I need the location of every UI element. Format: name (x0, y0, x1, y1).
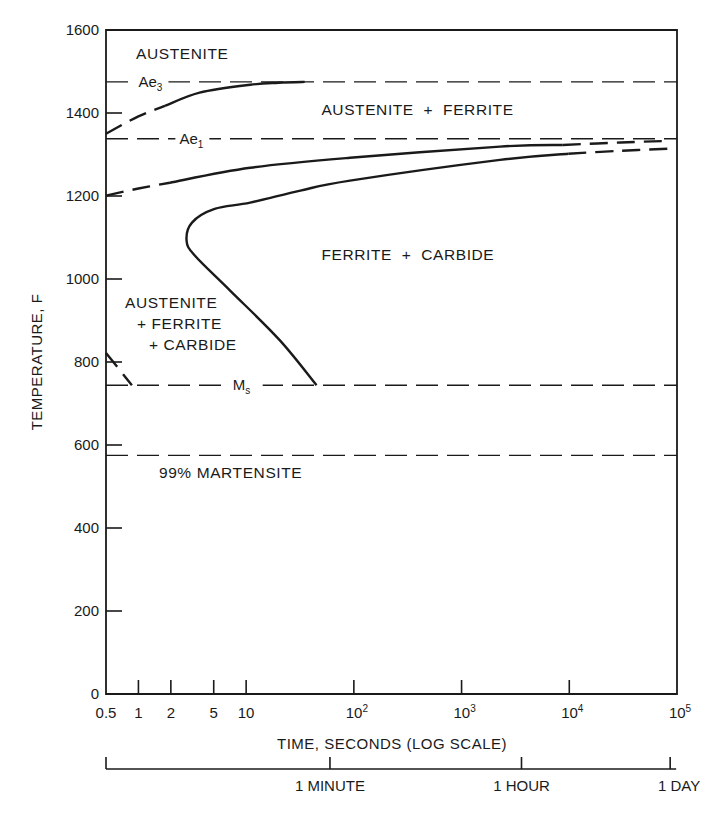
curve-segment-dashed (106, 183, 170, 196)
secondary-time-axis: 1 MINUTE1 HOUR1 DAY (106, 757, 700, 794)
x-axis-ticks: 0.512510102103104105 (96, 680, 692, 721)
curve-bainite-start-left (106, 353, 132, 385)
y-tick-label: 400 (74, 519, 99, 536)
secondary-tick-label: 1 DAY (658, 777, 700, 794)
y-tick-label: 1200 (66, 187, 99, 204)
curve-pearlite-start (106, 141, 670, 196)
secondary-tick-label: 1 MINUTE (295, 777, 365, 794)
x-tick-exponent: 5 (686, 703, 692, 714)
region-label-ferrite-carbide: FERRITE + CARBIDE (321, 246, 494, 263)
curve-pearlite-finish (186, 149, 669, 386)
region-label-line: 99% MARTENSITE (159, 464, 302, 481)
curve-segment-dashed (106, 106, 165, 134)
x-tick-label: 102 (346, 703, 369, 721)
curve-segment-solid (186, 154, 568, 386)
y-tick-label: 1600 (66, 21, 99, 38)
x-tick-label: 105 (669, 703, 692, 721)
x-tick-label: 104 (561, 703, 584, 721)
x-tick-label: 1 (134, 704, 142, 721)
region-label-martensite-99: 99% MARTENSITE (159, 464, 302, 481)
region-label-austenite: AUSTENITE (136, 45, 228, 62)
x-tick-label: 0.5 (96, 704, 117, 721)
ttt-diagram: Ae3Ae1Ms 02004006008001000120014001600 0… (0, 0, 712, 817)
label-subscript: 3 (157, 82, 163, 93)
y-axis-ticks: 02004006008001000120014001600 (66, 21, 122, 702)
curve-segment-dashed (106, 353, 132, 385)
y-tick-label: 1400 (66, 104, 99, 121)
curve-segment-dashed (563, 141, 670, 145)
x-tick-label: 103 (453, 703, 476, 721)
x-tick-exponent: 2 (362, 703, 368, 714)
region-label-line: + CARBIDE (149, 336, 237, 353)
x-tick-label: 10 (238, 704, 255, 721)
x-tick-exponent: 3 (470, 703, 476, 714)
y-tick-label: 800 (74, 353, 99, 370)
y-axis-title: TEMPERATURE, F (28, 294, 45, 431)
curve-segment-dashed (568, 149, 670, 154)
x-tick-label: 5 (210, 704, 218, 721)
x-axis-title: TIME, SECONDS (LOG SCALE) (277, 735, 507, 752)
region-label-line: AUSTENITE + FERRITE (321, 101, 513, 118)
region-labels: AUSTENITEAUSTENITE + FERRITEFERRITE + CA… (125, 45, 514, 481)
x-tick-label: 2 (167, 704, 175, 721)
y-tick-label: 0 (91, 685, 99, 702)
label-subscript: 1 (198, 139, 204, 150)
region-label-austenite-ferrite: AUSTENITE + FERRITE (321, 101, 513, 118)
secondary-tick-label: 1 HOUR (493, 777, 550, 794)
region-label-line: + FERRITE (137, 315, 222, 332)
y-tick-label: 600 (74, 436, 99, 453)
region-label-line: AUSTENITE (136, 45, 228, 62)
label-subscript: s (245, 385, 250, 396)
y-tick-label: 200 (74, 602, 99, 619)
region-label-line: AUSTENITE (125, 294, 217, 311)
curve-segment-solid (165, 82, 305, 106)
region-label-austenite-ferrite-carbide: AUSTENITE+ FERRITE+ CARBIDE (125, 294, 237, 353)
x-tick-exponent: 4 (578, 703, 584, 714)
reference-lines: Ae3Ae1Ms (106, 72, 677, 456)
region-label-line: FERRITE + CARBIDE (321, 246, 494, 263)
y-tick-label: 1000 (66, 270, 99, 287)
